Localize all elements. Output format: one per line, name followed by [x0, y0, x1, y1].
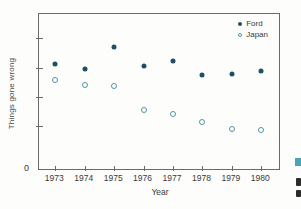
x-tick-label: 1976 [133, 173, 152, 183]
caption-text-fragment [296, 178, 301, 186]
legend-entry-ford: Ford [238, 19, 268, 28]
x-tick-label: 1979 [221, 173, 240, 183]
data-point-japan [52, 77, 58, 83]
data-point-japan [258, 127, 264, 133]
open-circle-marker-icon [238, 33, 242, 37]
x-axis-tick [261, 166, 262, 171]
data-point-japan [82, 82, 88, 88]
data-point-ford [141, 63, 146, 68]
x-axis-tick [85, 166, 86, 171]
data-point-japan [141, 107, 147, 113]
x-tick-label: 1978 [192, 173, 211, 183]
data-point-ford [53, 62, 58, 67]
y-axis-tick [36, 68, 43, 69]
x-axis-tick [55, 166, 56, 171]
y-axis-tick [36, 38, 43, 39]
x-axis-tick [173, 166, 174, 171]
x-axis-title: Year [120, 187, 200, 197]
data-point-ford [200, 73, 205, 78]
caption-text-fragment [296, 190, 301, 197]
data-point-ford [112, 44, 117, 49]
data-point-japan [170, 111, 176, 117]
x-tick-label: 1973 [45, 173, 64, 183]
chart-legend: Ford Japan [238, 19, 268, 39]
legend-label-japan: Japan [246, 30, 268, 39]
data-point-ford [82, 66, 87, 71]
x-tick-label: 1977 [163, 173, 182, 183]
x-axis-tick [114, 166, 115, 171]
data-point-ford [259, 68, 264, 73]
legend-entry-japan: Japan [238, 30, 268, 39]
plot-area: Ford Japan [38, 13, 280, 170]
figure-caption-marker-fragment [295, 158, 301, 166]
y-axis-origin-label: 0 [24, 163, 29, 173]
x-tick-label: 1980 [251, 173, 270, 183]
x-axis-tick [202, 166, 203, 171]
data-point-japan [199, 119, 205, 125]
y-axis-tick [36, 126, 43, 127]
filled-circle-marker-icon [238, 22, 242, 26]
x-tick-label: 1975 [104, 173, 123, 183]
legend-label-ford: Ford [246, 19, 262, 28]
data-point-ford [171, 59, 176, 64]
x-tick-label: 1974 [74, 173, 93, 183]
x-axis-tick [144, 166, 145, 171]
y-axis-title: Things gone wrong [7, 54, 16, 134]
x-axis-tick [232, 166, 233, 171]
data-point-ford [229, 71, 234, 76]
y-axis-tick [36, 97, 43, 98]
data-point-japan [111, 83, 117, 89]
data-point-japan [229, 126, 235, 132]
scanned-figure-page: Things gone wrong 0 Ford Japan 197319741… [0, 0, 301, 209]
